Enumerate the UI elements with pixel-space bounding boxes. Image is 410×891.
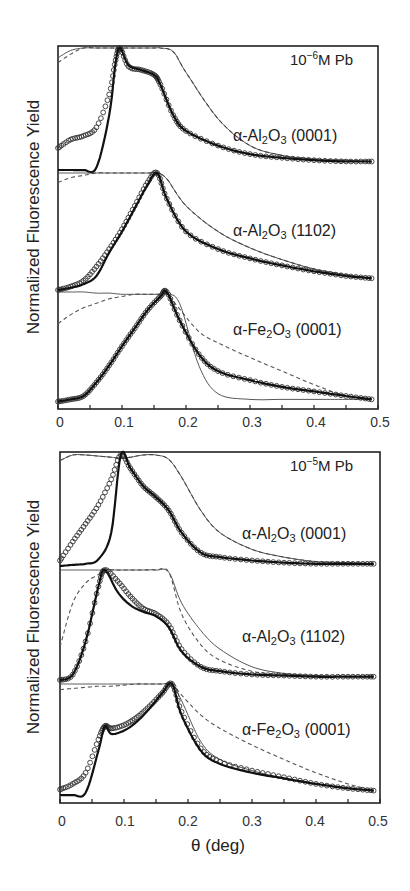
- x-tick-label: 0.5: [370, 414, 389, 430]
- x-tick-label: 0.2: [178, 813, 197, 829]
- curve-label-al2o3-1102-bottom: α-Al2O3 (1102): [242, 628, 345, 647]
- thin-model-curve: [58, 292, 372, 400]
- fit-curve: [58, 291, 372, 402]
- figure-canvas: [0, 0, 410, 891]
- y-axis-label-bottom: Normalized Fluorescence Yield: [24, 477, 44, 757]
- dashed-model-curve: [58, 293, 372, 399]
- panel-title-top: 10−6M Pb: [290, 50, 353, 68]
- x-tick-label: 0.5: [368, 813, 387, 829]
- curve-label-fe2o3-0001-bottom: α-Fe2O3 (0001): [242, 721, 351, 740]
- curve-label-al2o3-0001-bottom: α-Al2O3 (0001): [242, 525, 346, 544]
- x-tick-label: 0: [56, 414, 64, 430]
- x-tick-label: 0.3: [242, 414, 261, 430]
- data-points: [58, 568, 376, 683]
- y-axis-label-top: Normalized Fluorescence Yield: [24, 77, 44, 357]
- x-tick-label: 0.2: [178, 414, 197, 430]
- fit-curve: [60, 570, 374, 680]
- x-tick-label: 0: [58, 813, 66, 829]
- curve-label-al2o3-0001-top: α-Al2O3 (0001): [233, 127, 337, 146]
- x-tick-label: 0.1: [114, 414, 133, 430]
- panel-title-bottom: 10−5M Pb: [290, 456, 353, 474]
- data-points: [56, 288, 374, 404]
- dashed-model-curve: [60, 568, 374, 676]
- thin-model-curve: [60, 569, 374, 677]
- x-tick-label: 0.1: [115, 813, 134, 829]
- x-tick-label: 0.4: [305, 813, 324, 829]
- x-axis-label: θ (deg): [191, 836, 245, 856]
- curve-label-al2o3-1102-top: α-Al2O3 (1102): [233, 222, 336, 241]
- x-tick-label: 0.4: [306, 414, 325, 430]
- x-tick-label: 0.3: [242, 813, 261, 829]
- curve-label-fe2o3-0001-top: α-Fe2O3 (0001): [233, 321, 342, 340]
